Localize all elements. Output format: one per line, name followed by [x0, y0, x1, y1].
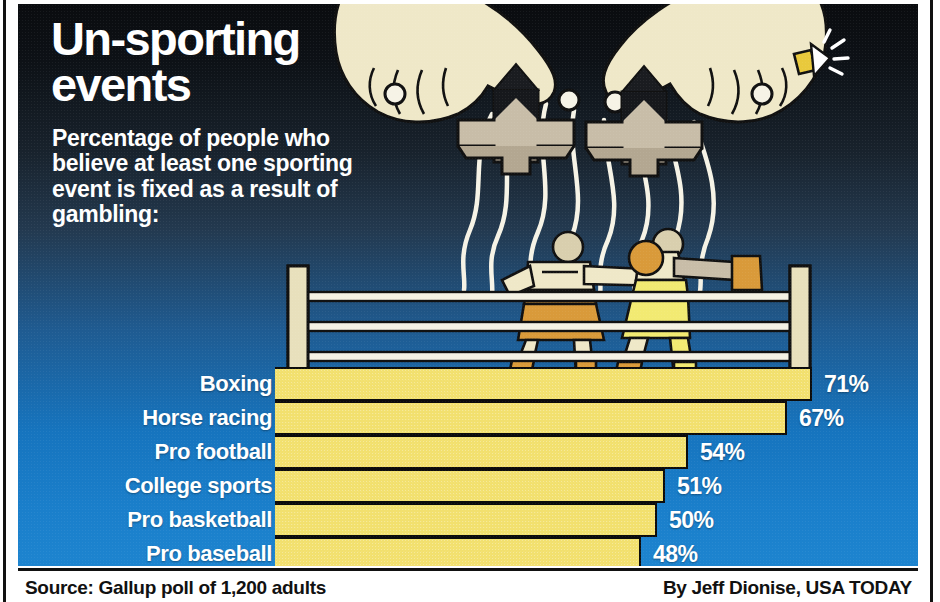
bar-value: 51%: [677, 473, 722, 500]
bar-fill: [275, 537, 641, 566]
bar-value: 54%: [700, 439, 745, 466]
table-row: Pro football 54%: [18, 435, 918, 469]
table-row: Horse racing 67%: [18, 401, 918, 435]
bar-fill: [275, 435, 688, 469]
graphic-panel: Un-sporting events Percentage of people …: [18, 4, 918, 566]
bar-label: Horse racing: [142, 405, 272, 431]
bar-fill: [275, 367, 812, 401]
footer-bar: Source: Gallup poll of 1,200 adults By J…: [18, 568, 918, 602]
table-row: Boxing 71%: [18, 367, 918, 401]
credit-note: By Jeff Dionise, USA TODAY: [663, 577, 912, 599]
bar-fill: [275, 469, 665, 503]
frame-border-right: [930, 0, 933, 602]
source-note: Source: Gallup poll of 1,200 adults: [25, 577, 326, 599]
bar-value: 50%: [669, 507, 714, 534]
bar-value: 67%: [799, 405, 844, 432]
bar-value: 48%: [653, 541, 698, 567]
bar-label: Boxing: [200, 371, 272, 397]
bar-value: 71%: [824, 371, 869, 398]
table-row: Pro baseball 48%: [18, 537, 918, 566]
frame-border-left: [3, 0, 6, 602]
bar-chart: Boxing 71% Horse racing 67% Pro football…: [18, 4, 918, 566]
bar-label: College sports: [125, 473, 272, 499]
bar-label: Pro baseball: [146, 541, 272, 566]
bar-label: Pro basketball: [127, 507, 272, 533]
bar-fill: [275, 503, 657, 537]
usa-today-infographic: Un-sporting events Percentage of people …: [0, 0, 940, 602]
table-row: College sports 51%: [18, 469, 918, 503]
bar-fill: [275, 401, 787, 435]
table-row: Pro basketball 50%: [18, 503, 918, 537]
bar-label: Pro football: [155, 439, 272, 465]
